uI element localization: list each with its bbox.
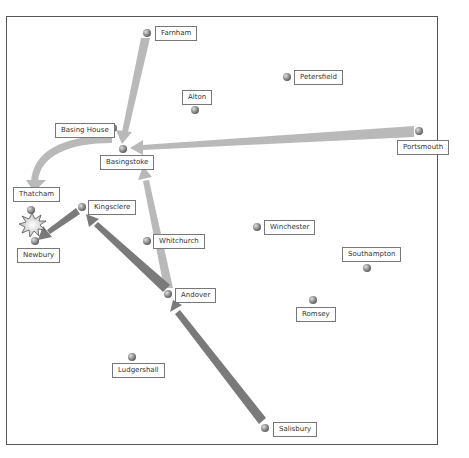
town-dot-southampton[interactable] [363,264,371,272]
town-dot-romsey[interactable] [309,296,317,304]
town-label-petersfield[interactable]: Petersfield [294,70,343,85]
town-dot-thatcham[interactable] [27,206,35,214]
town-label-whitchurch[interactable]: Whitchurch [153,234,205,249]
map-canvas [0,0,469,458]
town-dot-petersfield[interactable] [283,73,291,81]
town-label-alton[interactable]: Alton [182,90,212,105]
town-dot-winchester[interactable] [253,223,261,231]
town-label-kingsclere[interactable]: Kingsclere [88,200,136,215]
town-dot-whitchurch[interactable] [143,237,151,245]
town-label-romsey[interactable]: Romsey [296,307,336,322]
town-dot-salisbury[interactable] [261,424,269,432]
arrow-salisbury-to-andover [170,300,266,424]
town-label-basingstoke[interactable]: Basingstoke [100,155,154,170]
town-label-newbury[interactable]: Newbury [17,248,60,263]
town-dot-basingstoke[interactable] [119,145,127,153]
town-label-ludgershall[interactable]: Ludgershall [112,363,165,378]
town-label-basing-house[interactable]: Basing House [55,123,115,138]
town-label-thatcham[interactable]: Thatcham [13,187,60,202]
town-label-farnham[interactable]: Farnham [155,26,197,41]
arrow-farnham-to-basingstoke [116,38,150,144]
arrow-portsmouth-to-basingstoke [130,126,414,155]
town-dot-newbury[interactable] [31,237,39,245]
town-label-salisbury[interactable]: Salisbury [273,422,317,437]
town-dot-ludgershall[interactable] [128,353,136,361]
town-label-winchester[interactable]: Winchester [264,220,315,235]
town-dot-andover[interactable] [164,290,172,298]
town-label-portsmouth[interactable]: Portsmouth [397,140,449,155]
town-label-southampton[interactable]: Southampton [342,247,401,262]
arrow-kingsclere-to-newbury [38,208,80,240]
town-dot-kingsclere[interactable] [78,203,86,211]
town-dot-alton[interactable] [191,106,199,114]
town-label-andover[interactable]: Andover [175,288,216,303]
town-dot-portsmouth[interactable] [415,127,423,135]
town-dot-farnham[interactable] [143,29,151,37]
